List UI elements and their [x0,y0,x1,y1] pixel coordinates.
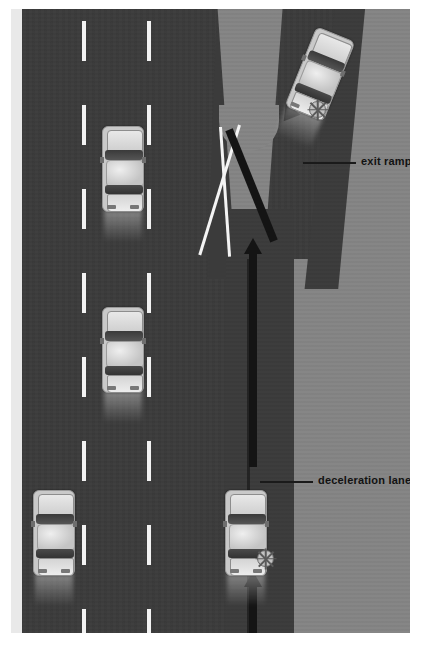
car-roof [229,524,267,551]
lane-dash [82,357,86,397]
lane-dash [147,609,151,633]
car-mirror-left [100,157,104,163]
car-roof [106,341,144,368]
car-hood [107,311,143,333]
exit-ramp-callout-line [303,162,356,164]
exit-ramp-label: exit ramp [361,155,410,167]
car-windshield [228,514,266,524]
car-taillight-right [130,205,139,209]
car-mirror-left [223,521,227,527]
left-shoulder-strip [11,9,22,633]
car-taillight-right [130,386,139,390]
lane-dash [82,609,86,633]
lane-dash [147,441,151,481]
car-body [102,307,144,393]
car-mirror-left [31,521,35,527]
car-mirror-left [301,54,307,61]
car-hood [107,130,143,152]
lane-dash [82,273,86,313]
shoulder-lower [282,259,410,633]
path-arrow-middle-shaft [249,254,257,467]
car-rear-window [105,366,143,375]
lane-dash [147,357,151,397]
car-taillight-left [38,569,47,573]
car-trunk [107,194,143,212]
lane-dash [82,105,86,145]
car-center-lower[interactable] [102,307,144,393]
car-hood [38,494,74,516]
lane-dash [82,441,86,481]
lane-dash [147,273,151,313]
turn-signal-indicator-ramp-car [309,101,326,118]
car-roof [106,160,144,187]
car-rear-window [105,185,143,194]
car-roof [37,524,75,551]
car-windshield [36,514,74,524]
car-taillight-left [107,205,116,209]
lane-dash [82,189,86,229]
deceleration-lane-label: deceleration lane [318,474,410,486]
lane-dash [147,21,151,61]
car-taillight-left [107,386,116,390]
lane-dash [147,189,151,229]
car-hood [230,494,266,516]
car-windshield [105,150,143,160]
car-trunk [38,558,74,576]
car-taillight-right [253,569,262,573]
car-center-upper[interactable] [102,126,144,212]
highway-scene: exit ramp deceleration lane [11,9,410,633]
lane-dash [82,525,86,565]
car-rear-window [36,549,74,558]
car-body [33,490,75,576]
deceleration-lane-callout-line [260,481,313,483]
car-trunk [107,375,143,393]
diagram-canvas: exit ramp deceleration lane [0,0,421,645]
car-windshield [105,331,143,341]
car-mirror-right [142,157,146,163]
turn-signal-indicator-decel-car [257,550,274,567]
car-taillight-right [61,569,70,573]
car-mirror-right [142,338,146,344]
lane-dash [82,21,86,61]
car-mirror-right [73,521,77,527]
car-body [102,126,144,212]
car-taillight-left [230,569,239,573]
lane-dash [147,525,151,565]
car-left-bottom[interactable] [33,490,75,576]
lane-dash [147,105,151,145]
car-mirror-right [265,521,269,527]
path-arrow-middle-head [244,238,262,254]
car-mirror-left [100,338,104,344]
